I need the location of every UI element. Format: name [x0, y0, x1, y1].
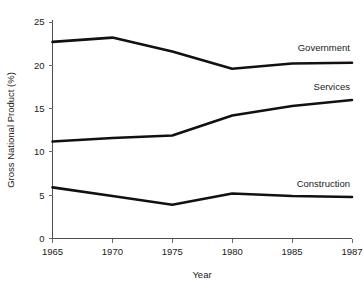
- series-label-government: Government: [298, 42, 351, 53]
- x-tick-label: 1970: [102, 246, 123, 257]
- y-tick-label: 20: [34, 60, 45, 71]
- x-tick-label: 1985: [282, 246, 303, 257]
- x-tick-label: 1975: [162, 246, 183, 257]
- y-tick-label: 0: [39, 233, 44, 244]
- x-tick-label-group: 196519701975198019851987: [42, 246, 363, 257]
- y-tick-label: 15: [34, 103, 45, 114]
- y-tick-label: 5: [39, 190, 44, 201]
- gnp-line-chart: 0510152025 Gross National Product (%) 19…: [0, 0, 364, 290]
- x-tick-group: [53, 239, 353, 243]
- y-axis: 0510152025 Gross National Product (%): [5, 16, 53, 244]
- chart-canvas: 0510152025 Gross National Product (%) 19…: [0, 0, 364, 290]
- x-tick-label: 1965: [42, 246, 63, 257]
- x-tick-label: 1980: [222, 246, 243, 257]
- y-tick-group: [49, 22, 53, 239]
- y-tick-label-group: 0510152025: [34, 16, 45, 244]
- x-axis-title: Year: [192, 269, 211, 280]
- x-axis: 196519701975198019851987 Year: [42, 239, 363, 281]
- x-tick-label: 1987: [341, 246, 362, 257]
- y-tick-label: 25: [34, 16, 45, 27]
- series-label-services: Services: [314, 81, 351, 92]
- y-tick-label: 10: [34, 146, 45, 157]
- series-line-services: [53, 100, 353, 142]
- series-line-construction: [53, 187, 353, 204]
- y-axis-title: Gross National Product (%): [5, 72, 16, 188]
- series-label-construction: Construction: [297, 178, 350, 189]
